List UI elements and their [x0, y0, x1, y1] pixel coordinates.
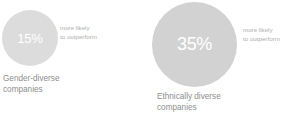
- diversity-performance-infographic: 15% more likely to outperform Gender-div…: [0, 0, 300, 119]
- label-line-2: companies: [3, 84, 113, 95]
- caption-line-2: to outperform: [60, 33, 118, 42]
- caption-line-1: more likely: [60, 24, 118, 33]
- bubble-value-gender-diverse: 15%: [2, 10, 58, 66]
- caption-gender-diverse: more likely to outperform: [60, 24, 118, 41]
- bubble-value-ethnically-diverse: 35%: [152, 2, 237, 87]
- label-line-1: Ethnically diverse: [157, 91, 287, 102]
- bubble-gender-diverse: 15%: [2, 10, 58, 66]
- caption-line-1: more likely: [243, 26, 300, 35]
- label-ethnically-diverse: Ethnically diverse companies: [157, 91, 287, 113]
- bubble-ethnically-diverse: 35%: [152, 2, 237, 87]
- caption-ethnically-diverse: more likely to outperform: [243, 26, 300, 43]
- label-gender-diverse: Gender-diverse companies: [3, 73, 113, 95]
- caption-line-2: to outperform: [243, 35, 300, 44]
- label-line-2: companies: [157, 102, 287, 113]
- label-line-1: Gender-diverse: [3, 73, 113, 84]
